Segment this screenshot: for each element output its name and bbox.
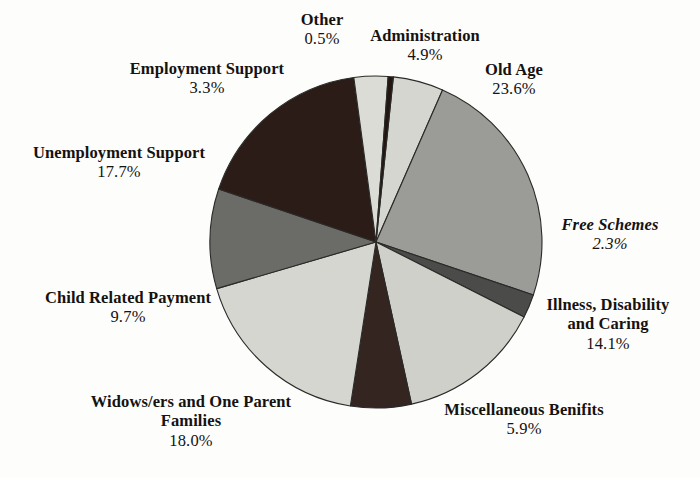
slice-label-widows-one-parent-families-name: Widows/ers and One Parent Families (56, 392, 326, 431)
slice-label-other: Other 0.5% (283, 10, 361, 49)
slice-label-old-age-name: Old Age (459, 60, 569, 79)
pie-slice-group (210, 76, 542, 408)
slice-label-employment-support-percent: 3.3% (108, 78, 306, 97)
slice-label-miscellaneous-benifits: Miscellaneous Benifits 5.9% (415, 400, 633, 439)
slice-label-child-related-payment-name: Child Related Payment (22, 288, 234, 307)
slice-label-old-age-percent: 23.6% (459, 79, 569, 98)
slice-label-other-name: Other (283, 10, 361, 29)
slice-label-free-schemes: Free Schemes 2.3% (545, 215, 675, 254)
slice-label-free-schemes-name: Free Schemes (545, 215, 675, 234)
slice-label-miscellaneous-benifits-name: Miscellaneous Benifits (415, 400, 633, 419)
slice-label-employment-support-name: Employment Support (108, 59, 306, 78)
pie-chart-figure: Other 0.5% Administration 4.9% Old Age 2… (0, 0, 700, 477)
slice-label-widows-one-parent-families-percent: 18.0% (56, 431, 326, 450)
slice-label-unemployment-support-name: Unemployment Support (10, 143, 228, 162)
slice-label-other-percent: 0.5% (283, 29, 361, 48)
slice-label-illness-disability-caring: Illness, Disability and Caring 14.1% (528, 295, 688, 353)
slice-label-employment-support: Employment Support 3.3% (108, 59, 306, 98)
slice-label-unemployment-support-percent: 17.7% (10, 162, 228, 181)
slice-label-administration-name: Administration (351, 26, 499, 45)
slice-label-miscellaneous-benifits-percent: 5.9% (415, 419, 633, 438)
slice-label-illness-disability-caring-name: Illness, Disability and Caring (528, 295, 688, 334)
slice-label-illness-disability-caring-percent: 14.1% (528, 334, 688, 353)
slice-label-unemployment-support: Unemployment Support 17.7% (10, 143, 228, 182)
slice-label-child-related-payment-percent: 9.7% (22, 307, 234, 326)
slice-label-widows-one-parent-families: Widows/ers and One Parent Families 18.0% (56, 392, 326, 450)
slice-label-free-schemes-percent: 2.3% (545, 234, 675, 253)
slice-label-child-related-payment: Child Related Payment 9.7% (22, 288, 234, 327)
slice-label-old-age: Old Age 23.6% (459, 60, 569, 99)
